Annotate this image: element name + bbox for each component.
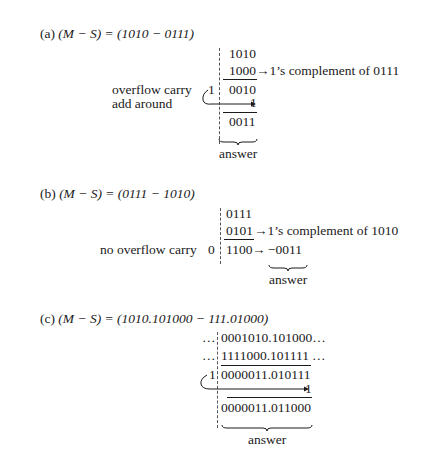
part-a-complement-note: →1’s complement of 0111 bbox=[256, 63, 399, 79]
part-b-sum-line bbox=[224, 239, 254, 240]
part-c-row2-prefix: … bbox=[202, 348, 216, 364]
part-c-expression: (M − S) = (1010.101000 − 111.01000) bbox=[58, 311, 268, 326]
part-c-sum-line bbox=[221, 365, 311, 366]
part-b-carry-label: no overflow carry bbox=[100, 242, 197, 258]
part-a-complement: 1000 bbox=[229, 63, 256, 79]
part-a-result-line bbox=[223, 112, 257, 113]
part-a-added-one: 1 bbox=[250, 95, 257, 111]
part-b-minuend: 0111 bbox=[226, 206, 252, 222]
part-c-label: (c) bbox=[40, 311, 55, 326]
part-c-answer-brace-icon bbox=[221, 424, 313, 432]
part-a-equation: (a) (M − S) = (1010 − 0111) bbox=[40, 26, 194, 42]
part-b-complement: 0101 bbox=[226, 223, 253, 239]
part-a-expression: (M − S) = (1010 − 0111) bbox=[58, 26, 194, 41]
part-c-result-line bbox=[227, 397, 312, 398]
part-a-carry-label-2: add around bbox=[112, 96, 172, 112]
part-c-row1: 0001010.101000… bbox=[221, 330, 326, 346]
part-c-row1-prefix: … bbox=[202, 330, 216, 346]
part-b-answer-label: answer bbox=[269, 272, 307, 288]
part-b-label: (b) bbox=[40, 186, 56, 201]
part-c-row2-suffix: … bbox=[312, 348, 326, 364]
part-b-equation: (b) (M − S) = (0111 − 1010) bbox=[40, 186, 195, 202]
part-a-minuend: 1010 bbox=[229, 46, 256, 62]
part-c-row2: 1111000.101111 bbox=[221, 348, 309, 364]
part-a-sum-line bbox=[223, 79, 257, 80]
part-c-result: 0000011.011000 bbox=[221, 400, 311, 416]
part-b-sum: 1100 bbox=[226, 242, 253, 258]
part-a-result: 0011 bbox=[229, 114, 256, 130]
part-b-carry-digit: 0 bbox=[208, 242, 215, 258]
part-a-answer-brace-icon bbox=[218, 138, 258, 146]
part-c-equation: (c) (M − S) = (1010.101000 − 111.01000) bbox=[40, 311, 268, 327]
part-c-carry-arrow-icon bbox=[198, 373, 318, 393]
part-b-complement-note: →1’s complement of 1010 bbox=[254, 223, 398, 239]
part-a-label: (a) bbox=[40, 26, 55, 41]
part-b-result: −0011 bbox=[268, 242, 302, 258]
part-c-answer-label: answer bbox=[248, 432, 286, 448]
part-c-added-one: 1 bbox=[305, 381, 312, 397]
part-a-answer-label: answer bbox=[219, 146, 257, 162]
part-b-divider bbox=[220, 208, 221, 264]
part-b-expression: (M − S) = (0111 − 1010) bbox=[59, 186, 195, 201]
part-b-answer-brace-icon bbox=[268, 264, 308, 272]
part-b-arrow-icon: → bbox=[252, 242, 266, 258]
